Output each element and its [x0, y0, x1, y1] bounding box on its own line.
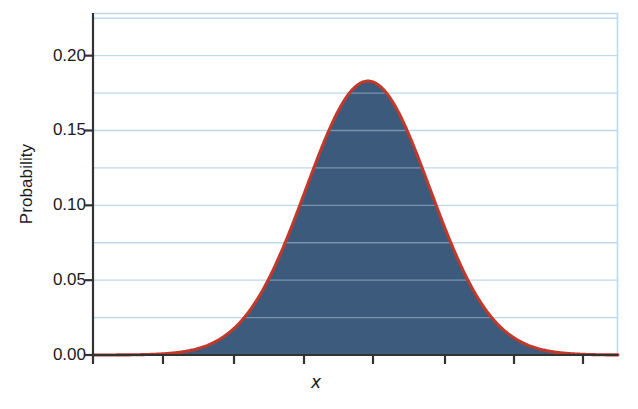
x-tick-group: [163, 355, 583, 364]
probability-distribution-chart: Probability x 0.000.050.100.150.20: [0, 0, 638, 409]
y-tick-group: [85, 56, 93, 355]
plot-area: [0, 0, 638, 409]
